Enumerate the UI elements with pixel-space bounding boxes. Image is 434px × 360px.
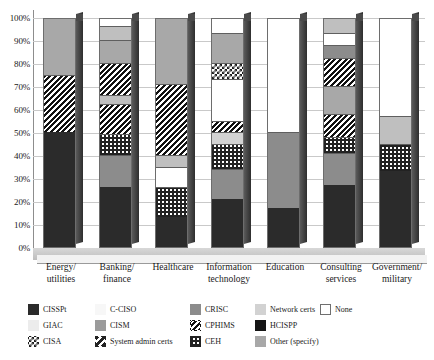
y-axis-tick-label: 80% [0, 60, 30, 69]
bar-segment[interactable] [156, 167, 187, 188]
legend-swatch-icon [28, 336, 39, 347]
bar-segment[interactable] [212, 144, 243, 169]
x-axis-label-line: military [363, 274, 431, 286]
legend-item-label: Network certs [270, 305, 315, 314]
bar-side-face [76, 12, 83, 244]
bar-segment[interactable] [324, 153, 355, 185]
x-axis-label-line: finance [83, 274, 151, 286]
legend-item[interactable]: None [320, 304, 352, 315]
bar-segment[interactable] [100, 26, 131, 40]
legend-item[interactable]: CRISC [190, 304, 228, 315]
bar-column[interactable] [323, 18, 356, 248]
bar-segment[interactable] [212, 33, 243, 63]
bar-segment[interactable] [44, 18, 75, 75]
bar-segment[interactable] [324, 114, 355, 137]
legend-item[interactable]: CISA [28, 336, 61, 347]
legend-swatch-icon [28, 304, 39, 315]
legend-item[interactable]: System admin certs [95, 336, 173, 347]
bar-segment[interactable] [156, 84, 187, 155]
bar-segment[interactable] [100, 95, 131, 104]
legend-item-label: CRISC [205, 305, 228, 314]
y-axis-tick-label: 40% [0, 152, 30, 161]
bar-segment[interactable] [324, 137, 355, 153]
bar-segment[interactable] [324, 33, 355, 45]
y-axis-tick-label: 60% [0, 106, 30, 115]
legend-item-label: CPHIMS [205, 321, 235, 330]
bar-segment[interactable] [380, 144, 411, 172]
bar-segment[interactable] [212, 18, 243, 33]
bar-segment[interactable] [44, 75, 75, 133]
bar-segment[interactable] [212, 79, 243, 120]
y-axis-tick-label: 90% [0, 37, 30, 46]
bar-column[interactable] [43, 18, 76, 248]
bar-segment[interactable] [324, 58, 355, 86]
chart-legend: CISSPtGIACCISAC-CISOCISMSystem admin cer… [0, 302, 434, 360]
bar-top-face [412, 14, 419, 21]
bar-segment[interactable] [100, 104, 131, 134]
bar-side-face [412, 12, 419, 244]
legend-item[interactable]: GIAC [28, 320, 63, 331]
bar-segment[interactable] [324, 18, 355, 33]
bar-segment[interactable] [156, 187, 187, 217]
bar-segment[interactable] [156, 217, 187, 247]
bar-segment[interactable] [100, 63, 131, 95]
bar-segment[interactable] [268, 18, 299, 132]
bar-segment[interactable] [156, 155, 187, 167]
legend-item[interactable]: C-CISO [95, 304, 136, 315]
bar-front-face [379, 18, 412, 248]
bar-top-face [188, 14, 195, 21]
bar-segment[interactable] [212, 132, 243, 144]
bar-segment[interactable] [212, 121, 243, 133]
bar-column[interactable] [211, 18, 244, 248]
legend-item-label: CISM [110, 321, 130, 330]
bar-column[interactable] [99, 18, 132, 248]
legend-item[interactable]: CEH [190, 336, 221, 347]
bar-segment[interactable] [324, 45, 355, 59]
legend-item[interactable]: Other (specify) [255, 336, 319, 347]
bar-side-face [356, 12, 363, 244]
legend-item[interactable]: CPHIMS [190, 320, 235, 331]
bar-segment[interactable] [324, 86, 355, 114]
x-axis-label: Government/military [363, 262, 431, 285]
bar-segment[interactable] [212, 63, 243, 79]
bar-segment[interactable] [44, 132, 75, 247]
legend-swatch-icon [28, 320, 39, 331]
bar-front-face [323, 18, 356, 248]
bar-segment[interactable] [100, 18, 131, 26]
bar-segment[interactable] [212, 199, 243, 247]
bar-segment[interactable] [100, 187, 131, 247]
bar-segment[interactable] [268, 208, 299, 247]
bar-segment[interactable] [100, 134, 131, 155]
y-axis: 100%90%80%70%60%50%40%30%20%10%0% [0, 0, 30, 300]
legend-swatch-icon [190, 304, 201, 315]
bar-segment[interactable] [324, 185, 355, 247]
legend-swatch-icon [95, 336, 106, 347]
legend-item[interactable]: CISM [95, 320, 130, 331]
bar-top-face [132, 14, 139, 21]
bar-segment[interactable] [268, 132, 299, 208]
stacked-bar-chart: 100%90%80%70%60%50%40%30%20%10%0% Energy… [0, 0, 434, 360]
bar-segment[interactable] [380, 171, 411, 247]
legend-item[interactable]: HCISPP [255, 320, 297, 331]
bar-series-container [33, 18, 425, 248]
bar-segment[interactable] [380, 116, 411, 144]
bar-column[interactable] [267, 18, 300, 248]
bar-segment[interactable] [100, 40, 131, 63]
bar-side-face [300, 12, 307, 244]
bar-segment[interactable] [156, 18, 187, 84]
bar-column[interactable] [155, 18, 188, 248]
legend-item[interactable]: CISSPt [28, 304, 67, 315]
bar-segment[interactable] [212, 169, 243, 199]
bar-segment[interactable] [380, 18, 411, 116]
legend-swatch-icon [190, 320, 201, 331]
bar-segment[interactable] [100, 155, 131, 187]
legend-swatch-icon [95, 320, 106, 331]
plot-area: 100%90%80%70%60%50%40%30%20%10%0% Energy… [0, 0, 434, 300]
bar-column[interactable] [379, 18, 412, 248]
bar-front-face [43, 18, 76, 248]
bar-side-face [132, 12, 139, 244]
legend-item[interactable]: Network certs [255, 304, 315, 315]
bar-top-face [76, 14, 83, 21]
bar-side-face [188, 12, 195, 244]
legend-item-label: CISSPt [43, 305, 67, 314]
